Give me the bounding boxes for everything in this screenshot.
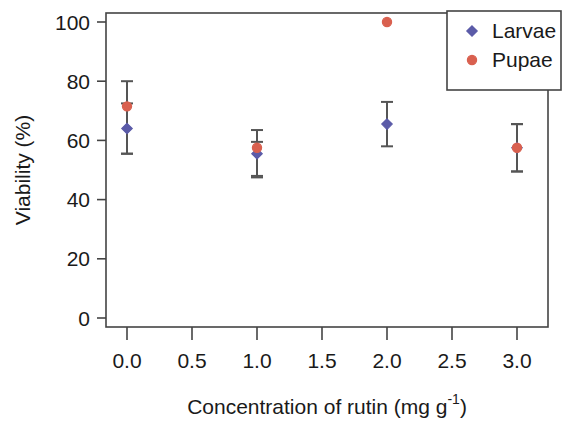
legend-marker-pupae xyxy=(467,55,476,64)
x-axis-title-main: Concentration of rutin (mg g xyxy=(187,395,447,418)
y-tick-label: 0 xyxy=(78,307,90,330)
y-tick-label: 80 xyxy=(67,70,90,93)
x-tick-label: 3.0 xyxy=(502,349,531,372)
x-axis-title: Concentration of rutin (mg g -1 ) xyxy=(187,391,467,418)
x-tick-label: 2.0 xyxy=(372,349,401,372)
x-tick-label: 0.0 xyxy=(112,349,141,372)
data-point-pupae xyxy=(382,17,391,26)
data-point-larvae xyxy=(382,119,392,129)
legend-label-larvae: Larvae xyxy=(492,19,556,42)
legend-label-pupae: Pupae xyxy=(492,48,553,71)
y-tick-label: 100 xyxy=(55,11,90,34)
x-tick-label: 1.0 xyxy=(242,349,271,372)
chart-canvas: 020406080100 0.00.51.01.52.02.53.0 Viabi… xyxy=(0,0,563,428)
viability-scatter-chart: 020406080100 0.00.51.01.52.02.53.0 Viabi… xyxy=(0,0,563,428)
x-tick-label: 2.5 xyxy=(437,349,466,372)
data-point-pupae xyxy=(122,102,131,111)
y-axis-ticks: 020406080100 xyxy=(55,11,106,330)
x-axis-title-superscript: -1 xyxy=(447,391,460,407)
x-tick-label: 0.5 xyxy=(177,349,206,372)
x-axis-ticks: 0.00.51.01.52.02.53.0 xyxy=(112,327,531,372)
data-point-larvae xyxy=(122,123,132,133)
y-tick-label: 20 xyxy=(67,247,90,270)
y-axis-title: Viability (%) xyxy=(11,115,34,225)
x-tick-label: 1.5 xyxy=(307,349,336,372)
data-point-pupae xyxy=(512,143,521,152)
data-point-pupae xyxy=(252,143,261,152)
y-tick-label: 60 xyxy=(67,129,90,152)
x-axis-title-tail: ) xyxy=(460,395,467,418)
chart-legend: LarvaePupae xyxy=(447,11,561,90)
y-tick-label: 40 xyxy=(67,188,90,211)
